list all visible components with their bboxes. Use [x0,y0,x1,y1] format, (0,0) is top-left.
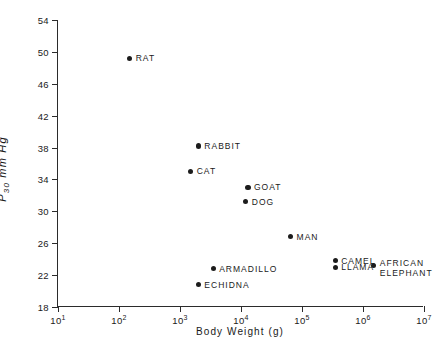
x-tick-mark [58,306,59,312]
data-point-label: RAT [136,53,155,64]
data-point-marker [288,234,293,239]
x-tick-label: 101 [50,315,65,326]
y-tick-mark [52,148,58,149]
y-axis-title: P30 mm Hg [0,136,8,202]
x-tick-label: 106 [355,315,370,326]
data-point-marker [196,282,201,287]
data-point-label: LLAMA [341,262,374,273]
y-tick-label: 50 [38,46,49,57]
y-tick-mark [52,243,58,244]
y-tick-label: 18 [38,302,49,313]
x-tick-label: 105 [294,315,309,326]
y-tick-mark [52,52,58,53]
y-axis-title-subscript: 30 [2,182,11,193]
data-point-label: AFRICAN ELEPHANT [380,257,433,278]
x-tick-label: 104 [233,315,248,326]
y-tick-label: 46 [38,78,49,89]
y-tick-label: 22 [38,270,49,281]
x-tick-mark [302,306,303,312]
data-point-label: DOG [252,196,274,207]
y-tick-label: 54 [38,15,49,26]
x-tick-mark [363,306,364,312]
data-point-label: ECHIDNA [204,279,249,290]
y-axis-title-unit: mm Hg [0,136,8,182]
y-tick-mark [52,211,58,212]
x-tick-mark [424,306,425,312]
x-tick-label: 102 [111,315,126,326]
data-point-label: ARMADILLO [219,263,277,274]
y-tick-mark [52,20,58,21]
y-tick-mark [52,179,58,180]
data-point-marker [333,265,338,270]
data-point-label: CAT [197,166,216,177]
y-tick-label: 34 [38,174,49,185]
y-tick-mark [52,116,58,117]
y-tick-label: 26 [38,238,49,249]
data-point-marker [196,143,201,148]
x-axis-title: Body Weight (g) [57,326,423,337]
plot-area: 54504642383430262218 1011021031041051061… [57,20,423,307]
y-tick-mark [52,84,58,85]
data-point-marker [127,56,132,61]
data-point-label: MAN [297,232,319,243]
data-point-marker [245,185,250,190]
x-tick-mark [180,306,181,312]
x-tick-label: 103 [172,315,187,326]
data-point-marker [243,199,248,204]
x-tick-mark [119,306,120,312]
y-tick-label: 42 [38,110,49,121]
data-point-marker [211,266,216,271]
data-point-marker [333,258,338,263]
scatter-plot-figure: P30 mm Hg 54504642383430262218 101102103… [0,0,440,344]
y-tick-label: 38 [38,142,49,153]
x-tick-label: 107 [416,315,431,326]
data-point-marker [371,263,376,268]
y-tick-label: 30 [38,206,49,217]
data-point-label: RABBIT [204,141,241,152]
y-tick-mark [52,275,58,276]
x-tick-mark [241,306,242,312]
data-point-label: GOAT [254,182,281,193]
y-axis-title-base: P [0,193,8,202]
data-point-marker [188,169,193,174]
